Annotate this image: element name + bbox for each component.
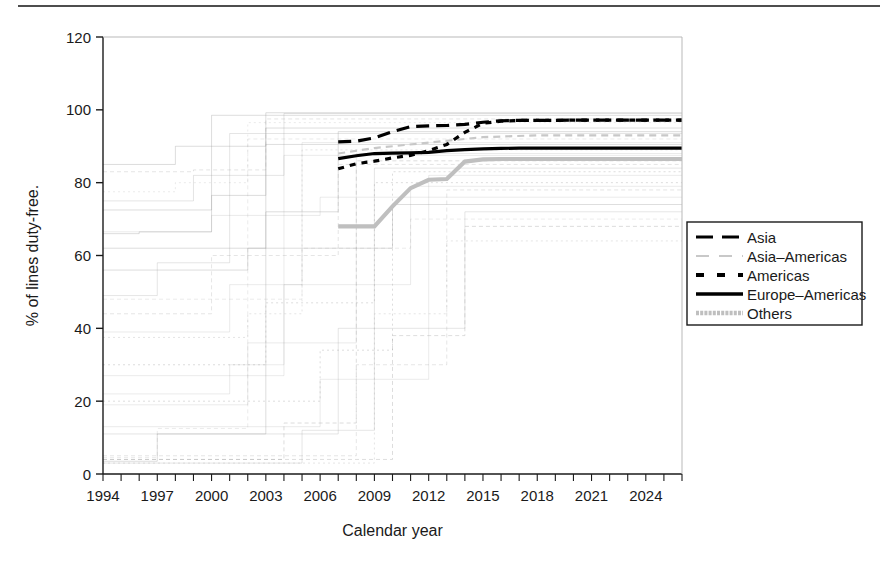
y-tick-label: 80	[74, 174, 91, 191]
highlighted-series-layer	[338, 120, 682, 226]
x-tick-label: 2024	[629, 487, 662, 504]
x-tick-label: 2009	[358, 487, 391, 504]
line-chart: 0204060801001201994199720002003200620092…	[0, 0, 892, 570]
series-line-others	[338, 159, 682, 226]
x-tick-label: 2018	[521, 487, 554, 504]
legend-label: Americas	[747, 267, 810, 284]
y-tick-label: 100	[66, 101, 91, 118]
y-tick-label: 20	[74, 393, 91, 410]
y-tick-label: 60	[74, 247, 91, 264]
figure-container: 0204060801001201994199720002003200620092…	[0, 0, 892, 570]
background-series-layer	[103, 113, 682, 463]
y-tick-label: 120	[66, 29, 91, 46]
x-axis-title: Calendar year	[342, 522, 443, 539]
top-rule-divider	[18, 5, 880, 7]
x-tick-label: 2021	[575, 487, 608, 504]
y-tick-label: 0	[83, 466, 91, 483]
legend-box: AsiaAsia–AmericasAmericasEurope–Americas…	[687, 222, 866, 325]
background-series-line	[103, 226, 682, 459]
y-tick-label: 40	[74, 320, 91, 337]
x-tick-label: 2003	[249, 487, 282, 504]
x-tick-label: 2012	[412, 487, 445, 504]
axes-layer	[96, 37, 682, 481]
legend-label: Europe–Americas	[747, 286, 866, 303]
x-tick-label: 1997	[141, 487, 174, 504]
x-tick-label: 1994	[86, 487, 119, 504]
background-series-line	[103, 144, 682, 461]
y-axis-title: % of lines duty-free.	[24, 185, 41, 326]
legend-label: Others	[747, 305, 792, 322]
axis-labels-layer: 0204060801001201994199720002003200620092…	[24, 29, 663, 540]
legend-label: Asia–Americas	[747, 248, 847, 265]
x-tick-label: 2015	[466, 487, 499, 504]
x-tick-label: 2006	[303, 487, 336, 504]
x-tick-label: 2000	[195, 487, 228, 504]
legend-label: Asia	[747, 229, 777, 246]
